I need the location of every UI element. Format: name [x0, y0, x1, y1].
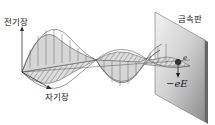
metal-plate-label: 금속판 [178, 12, 202, 24]
electron-label: e [183, 54, 187, 62]
force-label: −eE [166, 78, 188, 89]
electric-field-axis [20, 26, 24, 72]
magnetic-field-label: 자기장 [45, 90, 69, 102]
metal-plate [155, 12, 208, 124]
em-wave-diagram: 전기장 자기장 금속판 e −eE [0, 0, 215, 125]
electric-field-label: 전기장 [4, 15, 28, 27]
